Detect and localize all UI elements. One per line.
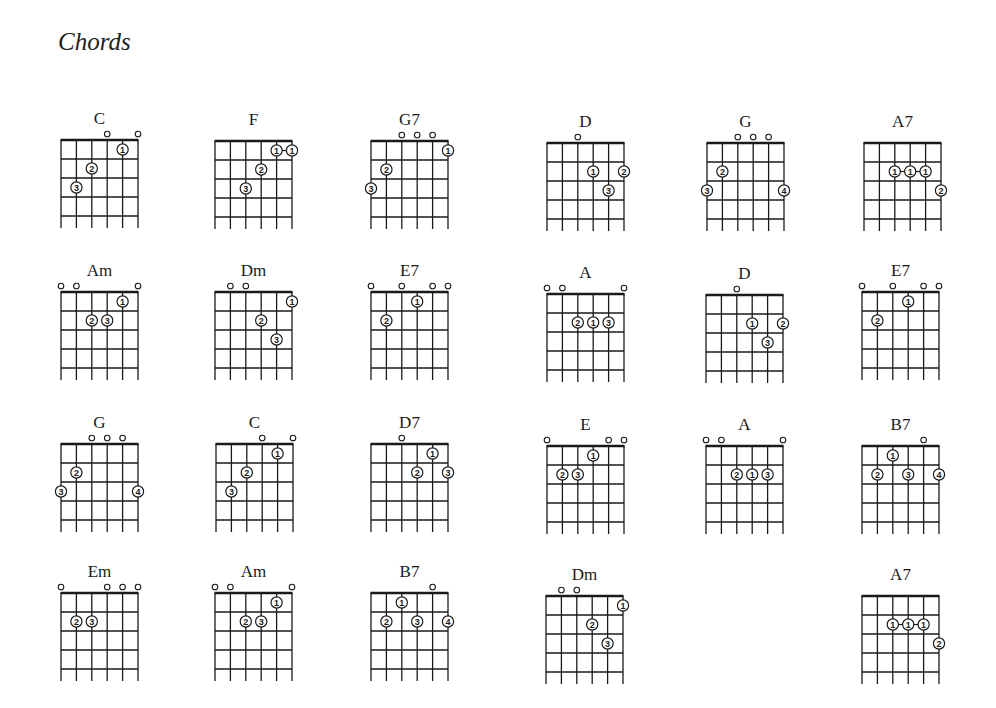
open-string-marker (135, 283, 141, 289)
chord-name: D (526, 112, 646, 132)
fretboard-grid: 23 (49, 581, 150, 693)
finger-marker: 2 (618, 166, 629, 177)
chord-name: A7 (841, 565, 961, 585)
finger-marker: 4 (778, 185, 789, 196)
page-title: Chords (58, 28, 131, 56)
svg-text:2: 2 (74, 468, 79, 478)
fretboard-grid: 12 (359, 280, 460, 392)
chord-name: Am (194, 562, 314, 582)
svg-text:1: 1 (430, 449, 435, 459)
open-string-marker (575, 134, 581, 140)
open-string-marker (921, 283, 927, 289)
finger-marker: 1 (903, 296, 914, 307)
open-string-marker (259, 435, 265, 441)
svg-text:1: 1 (591, 451, 596, 461)
svg-text:3: 3 (259, 617, 264, 627)
open-string-marker (414, 132, 420, 138)
open-string-marker (734, 286, 740, 292)
finger-marker: 2 (381, 164, 392, 175)
svg-text:1: 1 (120, 297, 125, 307)
open-string-marker (719, 437, 725, 443)
svg-text:3: 3 (445, 468, 450, 478)
svg-text:2: 2 (384, 617, 389, 627)
svg-text:1: 1 (620, 601, 625, 611)
svg-text:3: 3 (605, 639, 610, 649)
open-string-marker (399, 132, 405, 138)
finger-marker: 1 (271, 597, 282, 608)
svg-text:3: 3 (229, 487, 234, 497)
svg-text:3: 3 (415, 617, 420, 627)
open-string-marker (104, 435, 110, 441)
finger-marker: 3 (365, 183, 376, 194)
finger-marker: 1 (747, 469, 758, 480)
svg-text:1: 1 (289, 297, 294, 307)
svg-text:2: 2 (720, 167, 725, 177)
finger-marker: 1 (117, 144, 128, 155)
fretboard-grid: 12 (850, 280, 951, 392)
open-string-marker (289, 584, 295, 590)
open-string-marker (750, 134, 756, 140)
open-string-marker (104, 131, 110, 137)
svg-text:1: 1 (890, 620, 895, 630)
open-string-marker (368, 283, 374, 289)
svg-text:3: 3 (89, 617, 94, 627)
chord-name: G (40, 413, 160, 433)
svg-text:1: 1 (750, 470, 755, 480)
svg-text:2: 2 (590, 620, 595, 630)
svg-text:3: 3 (765, 338, 770, 348)
finger-marker: 2 (587, 619, 598, 630)
fretboard-grid: 234 (49, 432, 150, 544)
finger-marker: 1 (412, 296, 423, 307)
open-string-marker (243, 283, 249, 289)
svg-text:2: 2 (560, 470, 565, 480)
open-string-marker (290, 435, 296, 441)
finger-marker: 1 (271, 145, 282, 156)
finger-marker: 2 (872, 469, 883, 480)
chord-name: F (194, 110, 314, 130)
open-string-marker (560, 285, 566, 291)
finger-marker: 1 (617, 600, 628, 611)
svg-text:1: 1 (890, 451, 895, 461)
finger-marker: 3 (412, 616, 423, 627)
finger-marker: 1 (887, 619, 898, 630)
chord-name: Dm (525, 565, 645, 585)
fretboard-grid: 1112 (850, 584, 951, 696)
svg-text:1: 1 (906, 297, 911, 307)
svg-text:1: 1 (289, 146, 294, 156)
svg-text:3: 3 (575, 470, 580, 480)
svg-text:1: 1 (923, 167, 928, 177)
chord-name: G7 (350, 110, 470, 130)
svg-text:1: 1 (274, 146, 279, 156)
chord-name: Dm (194, 261, 314, 281)
finger-marker: 2 (381, 315, 392, 326)
open-string-marker (936, 283, 942, 289)
open-string-marker (430, 584, 436, 590)
svg-text:2: 2 (384, 165, 389, 175)
finger-marker: 1 (396, 597, 407, 608)
svg-text:3: 3 (274, 335, 279, 345)
open-string-marker (921, 437, 927, 443)
fretboard-grid: 123 (49, 128, 150, 240)
finger-marker: 2 (71, 616, 82, 627)
finger-marker: 2 (381, 616, 392, 627)
svg-text:3: 3 (606, 186, 611, 196)
finger-marker: 2 (86, 315, 97, 326)
finger-marker: 3 (271, 334, 282, 345)
fretboard-grid: 1234 (359, 581, 460, 693)
finger-marker: 2 (933, 638, 944, 649)
finger-marker: 2 (557, 469, 568, 480)
finger-marker: 3 (762, 469, 773, 480)
svg-text:2: 2 (384, 316, 389, 326)
svg-text:3: 3 (105, 316, 110, 326)
finger-marker: 3 (55, 486, 66, 497)
open-string-marker (780, 437, 786, 443)
chord-name: G (686, 112, 806, 132)
finger-marker: 1 (427, 448, 438, 459)
open-string-marker (228, 584, 234, 590)
open-string-marker (135, 131, 141, 137)
svg-text:4: 4 (445, 617, 450, 627)
finger-marker: 2 (86, 163, 97, 174)
svg-text:2: 2 (734, 470, 739, 480)
finger-marker: 3 (903, 469, 914, 480)
svg-text:2: 2 (415, 468, 420, 478)
